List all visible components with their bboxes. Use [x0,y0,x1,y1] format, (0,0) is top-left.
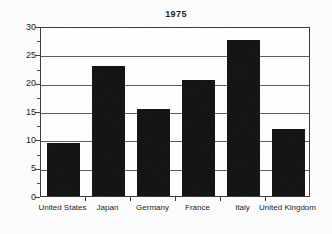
bar-chart: 1975 051015202530 United StatesJapanGerm… [0,0,332,234]
bars-layer [41,28,309,196]
y-axis-label: 10 [2,136,36,145]
x-axis-tick-labels: United StatesJapanGermanyFranceItalyUnit… [40,203,310,219]
bar [137,109,170,196]
chart-title: 1975 [40,9,312,19]
y-axis-label: 20 [2,79,36,88]
x-axis-tick [265,197,266,201]
bar [227,40,260,196]
y-axis-label: 30 [2,23,36,32]
x-axis-tick [85,197,86,201]
bar [182,80,215,196]
y-axis-label: 15 [2,108,36,117]
x-axis-label: United Kingdom [249,203,326,213]
y-axis-label: 5 [2,164,36,173]
plot-area [40,27,310,197]
x-axis-ticks [40,197,310,202]
bar [47,143,80,196]
x-axis-tick [130,197,131,201]
y-axis-label: 0 [2,193,36,202]
y-axis-tick-labels: 051015202530 [0,27,36,197]
x-axis-tick [220,197,221,201]
bar [272,129,305,196]
y-axis-label: 25 [2,51,36,60]
x-axis-tick [175,197,176,201]
bar [92,66,125,196]
